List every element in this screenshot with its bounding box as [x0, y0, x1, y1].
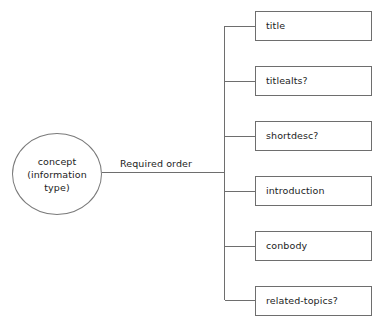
child-box-conbody: conbody: [255, 231, 372, 261]
child-box-label: titlealts?: [256, 75, 308, 87]
diagram-nodes: concept (information type) Required orde…: [0, 0, 381, 323]
child-box-related-topics: related-topics?: [255, 286, 372, 316]
child-box-introduction: introduction: [255, 176, 372, 206]
child-box-label: title: [256, 20, 285, 32]
child-box-label: conbody: [256, 240, 307, 252]
child-box-title: title: [255, 11, 372, 41]
root-node-concept: concept (information type): [12, 133, 102, 215]
child-box-shortdesc: shortdesc?: [255, 121, 372, 151]
child-box-label: related-topics?: [256, 295, 338, 307]
edge-label-required-order: Required order: [118, 158, 194, 170]
child-box-titlealts: titlealts?: [255, 66, 372, 96]
concept-structure-diagram: concept (information type) Required orde…: [0, 0, 381, 323]
child-box-label: shortdesc?: [256, 130, 319, 142]
root-node-label: concept (information type): [27, 155, 87, 194]
child-box-label: introduction: [256, 185, 325, 197]
